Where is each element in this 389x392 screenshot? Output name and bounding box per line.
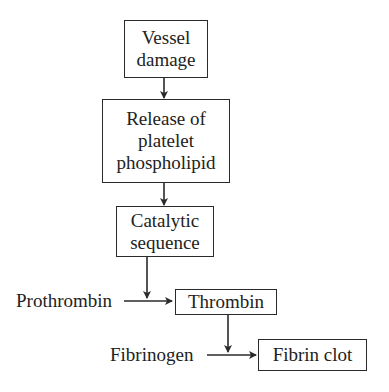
coagulation-flowchart: Vessel damage Release of platelet phosph… <box>0 0 389 392</box>
node-fibrin-clot: Fibrin clot <box>258 339 367 371</box>
node-thrombin: Thrombin <box>175 289 277 315</box>
node-text: Thrombin <box>188 291 264 313</box>
node-text: phospholipid <box>116 152 215 174</box>
node-text: Release of <box>126 108 206 130</box>
node-catalytic-sequence: Catalytic sequence <box>116 206 214 257</box>
node-text: sequence <box>130 232 200 254</box>
input-prothrombin: Prothrombin <box>16 290 112 312</box>
node-text: platelet <box>138 130 194 152</box>
node-release-platelet-phospholipid: Release of platelet phospholipid <box>102 99 230 183</box>
node-text: damage <box>136 49 195 71</box>
node-text: Catalytic <box>131 210 200 232</box>
node-text: Fibrin clot <box>273 344 353 366</box>
node-text: Vessel <box>142 27 191 49</box>
input-fibrinogen: Fibrinogen <box>110 344 193 366</box>
node-vessel-damage: Vessel damage <box>124 20 208 78</box>
